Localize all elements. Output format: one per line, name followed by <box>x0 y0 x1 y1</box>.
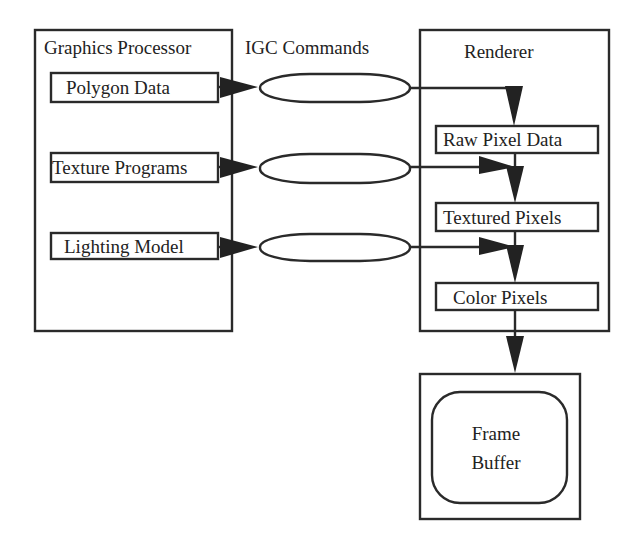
frame-buffer-group: Frame Buffer <box>420 374 580 519</box>
igc-commands-group: IGC Commands <box>218 37 410 261</box>
frame-buffer-inner-box <box>432 392 567 503</box>
lighting-model-label: Lighting Model <box>64 236 184 257</box>
arrow-right-icon <box>220 77 258 98</box>
diagram-canvas: Graphics Processor Polygon Data Texture … <box>0 0 643 555</box>
textured-pixels-label: Textured Pixels <box>443 207 561 228</box>
igc-channel-1 <box>260 74 410 102</box>
graphics-processor-group: Graphics Processor Polygon Data Texture … <box>35 30 232 331</box>
texture-programs-label: Texture Programs <box>52 157 187 178</box>
frame-buffer-label-line2: Buffer <box>471 452 521 473</box>
frame-buffer-label-line1: Frame <box>472 423 521 444</box>
polygon-data-label: Polygon Data <box>66 77 171 98</box>
igc-commands-title: IGC Commands <box>245 37 369 58</box>
graphics-processor-title: Graphics Processor <box>44 37 192 58</box>
igc-channel-3 <box>260 234 410 261</box>
raw-pixel-data-label: Raw Pixel Data <box>443 129 563 150</box>
arrow-right-icon <box>220 157 258 178</box>
renderer-title: Renderer <box>464 41 534 62</box>
color-pixels-label: Color Pixels <box>453 287 547 308</box>
igc-channel-2 <box>260 154 410 183</box>
arrow-right-icon <box>220 237 258 258</box>
arrow-down-icon <box>506 336 524 373</box>
